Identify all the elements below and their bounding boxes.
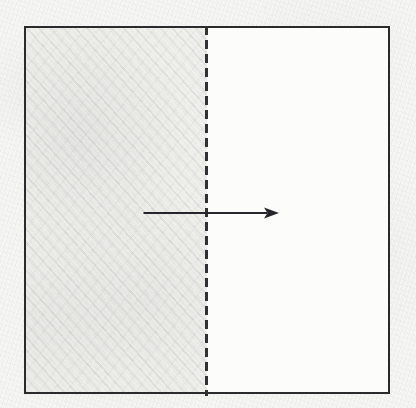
diagram-title: Fold right half over to the left along t… [0, 0, 1, 1]
fold-direction-arrow [143, 204, 280, 222]
diagram-canvas: Fold right half over to the left along t… [0, 0, 416, 408]
